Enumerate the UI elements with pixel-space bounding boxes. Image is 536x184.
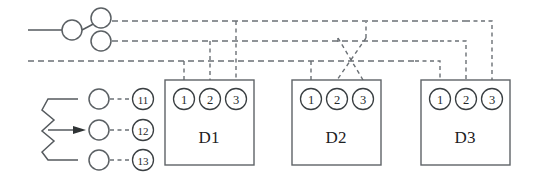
wiring-diagram: 11 12 13 1 2 3 D1 1 2 3 D2 bbox=[0, 0, 536, 184]
d3-name-label: D3 bbox=[455, 128, 476, 147]
drop-d3-terminal-1 bbox=[415, 61, 440, 80]
diagram-canvas: 11 12 13 1 2 3 D1 1 2 3 D2 bbox=[0, 0, 536, 184]
drop-d3-terminal-3 bbox=[466, 21, 492, 80]
drops-to-d2 bbox=[311, 22, 366, 80]
d2-terminal-2-label: 2 bbox=[334, 93, 340, 107]
d2-terminal-1-label: 1 bbox=[308, 93, 314, 107]
d1-terminal-1-label: 1 bbox=[181, 93, 187, 107]
potentiometer[interactable]: 11 12 13 bbox=[42, 89, 154, 171]
d1-name-label: D1 bbox=[199, 128, 220, 147]
drop-d2-terminal-3-crossed bbox=[338, 38, 363, 80]
d3-terminal-2-label: 2 bbox=[463, 93, 469, 107]
device-box-d1[interactable]: 1 2 3 D1 bbox=[165, 80, 254, 165]
terminal-11-label: 11 bbox=[138, 94, 149, 106]
switch-common-node[interactable] bbox=[62, 20, 82, 40]
drops-to-d3 bbox=[415, 21, 492, 80]
d2-name-label: D2 bbox=[326, 128, 347, 147]
device-box-d2[interactable]: 1 2 3 D2 bbox=[292, 80, 381, 165]
drop-d2-terminal-2-crossed bbox=[337, 38, 366, 80]
pot-node-13[interactable] bbox=[89, 150, 109, 170]
wiper-arrow-icon bbox=[73, 126, 86, 134]
device-box-d3[interactable]: 1 2 3 D3 bbox=[421, 80, 510, 165]
switch-contact-lower-node[interactable] bbox=[91, 31, 111, 51]
terminal-12-label: 12 bbox=[138, 125, 149, 137]
d3-terminal-1-label: 1 bbox=[437, 93, 443, 107]
changeover-switch[interactable] bbox=[28, 8, 111, 51]
d1-terminal-3-label: 3 bbox=[233, 93, 239, 107]
pot-node-11[interactable] bbox=[89, 89, 109, 109]
d3-terminal-3-label: 3 bbox=[489, 93, 495, 107]
drops-to-d1 bbox=[184, 21, 236, 80]
terminal-13-label: 13 bbox=[138, 155, 150, 167]
drop-d3-terminal-2 bbox=[440, 41, 466, 80]
d2-terminal-3-label: 3 bbox=[360, 93, 366, 107]
switch-contact-upper-node[interactable] bbox=[91, 8, 111, 28]
d1-terminal-2-label: 2 bbox=[207, 93, 213, 107]
pot-node-12[interactable] bbox=[89, 120, 109, 140]
